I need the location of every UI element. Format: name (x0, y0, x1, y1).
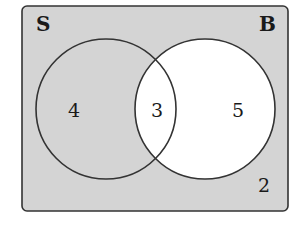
outside-count: 2 (258, 174, 270, 196)
b-only-count: 5 (232, 99, 244, 121)
intersection-count: 3 (151, 99, 163, 121)
set-s-label: S (36, 12, 50, 36)
set-b-label: B (259, 12, 276, 36)
venn-diagram: S B 4 3 5 2 (0, 0, 297, 226)
s-only-count: 4 (68, 99, 80, 121)
